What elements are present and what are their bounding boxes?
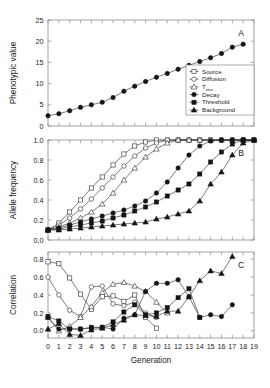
point-A-Phenotypic value	[100, 100, 105, 105]
ytick-label-C-1: 0.2	[34, 309, 44, 318]
point-A-Phenotypic value	[111, 95, 116, 100]
point-A-Phenotypic value	[143, 79, 148, 84]
panel-letter-C: C	[238, 260, 244, 270]
point-B-Threshold	[209, 160, 213, 164]
point-C-Threshold	[68, 327, 72, 331]
point-A-Phenotypic value	[198, 59, 203, 64]
point-B-Threshold	[154, 200, 158, 204]
point-C-Source	[154, 326, 158, 330]
point-B-Decay	[208, 139, 213, 144]
point-C-Diffusion	[100, 284, 105, 289]
legend-label-Source: Source	[202, 68, 222, 75]
point-C-Source	[133, 293, 137, 297]
ytick-label-B-3: 0.6	[34, 176, 44, 185]
legend-label-Decay: Decay	[202, 91, 220, 98]
point-B-Threshold	[230, 142, 234, 146]
point-A-Phenotypic value	[176, 67, 181, 72]
point-A-Phenotypic value	[165, 71, 170, 76]
point-B-Source	[100, 175, 104, 179]
point-C-Source	[100, 295, 104, 299]
xtick-label-6: 6	[111, 342, 115, 351]
point-B-Diffusion	[132, 154, 137, 159]
xtick-label-10: 10	[152, 342, 160, 351]
xtick-label-16: 16	[217, 342, 225, 351]
point-A-Phenotypic value	[219, 51, 224, 56]
ytick-label-C-0: 0.0	[34, 326, 44, 335]
point-B-Decay	[165, 180, 170, 185]
xtick-label-5: 5	[100, 342, 104, 351]
xtick-label-4: 4	[89, 342, 93, 351]
legend-label-Background: Background	[202, 106, 236, 113]
xtick-label-12: 12	[174, 342, 182, 351]
point-B-Source	[89, 186, 93, 190]
ytick-label-B-2: 0.4	[34, 196, 44, 205]
point-C-Diffusion	[67, 308, 72, 313]
point-A-Phenotypic value	[208, 55, 213, 60]
point-B-Source	[133, 144, 137, 148]
point-A-Phenotypic value	[132, 84, 137, 89]
point-B-Source	[143, 140, 147, 144]
point-C-Decay	[176, 278, 181, 283]
legend-marker-filled-circle	[192, 92, 197, 97]
legend-label-Threshold: Threshold	[202, 98, 230, 105]
xtick-label-15: 15	[207, 342, 215, 351]
point-B-Background	[219, 169, 225, 174]
xtick-label-17: 17	[228, 342, 236, 351]
point-B-Diffusion	[78, 207, 83, 212]
point-C-Decay	[111, 327, 116, 332]
point-B-Threshold	[219, 150, 223, 154]
ytick-label-B-1: 0.2	[34, 216, 44, 225]
point-B-Decay	[122, 208, 127, 213]
point-A-Phenotypic value	[241, 42, 246, 47]
legend-marker-open-circle	[192, 77, 197, 82]
point-B-Tenz	[143, 154, 149, 159]
point-B-Decay	[198, 144, 203, 149]
point-C-Threshold	[122, 310, 126, 314]
point-C-Decay	[219, 314, 224, 319]
panel-letter-A: A	[238, 28, 244, 38]
point-B-Tenz	[89, 209, 95, 214]
point-B-Tenz	[78, 215, 84, 220]
xtick-label-18: 18	[239, 342, 247, 351]
xtick-label-8: 8	[133, 342, 137, 351]
ytick-label-B-5: 1.0	[34, 136, 44, 145]
point-A-Phenotypic value	[122, 89, 127, 94]
point-B-Threshold	[176, 188, 180, 192]
point-B-Decay	[230, 138, 235, 143]
point-C-Tenz	[99, 290, 105, 295]
point-A-Phenotypic value	[89, 103, 94, 108]
point-A-Phenotypic value	[46, 114, 51, 119]
ytick-label-A-5: 25	[36, 16, 44, 25]
point-B-Threshold	[187, 182, 191, 186]
point-C-Source	[111, 294, 115, 298]
xtick-label-1: 1	[57, 342, 61, 351]
point-C-Threshold	[176, 296, 180, 300]
ylabel-B: Allele frequency	[9, 160, 18, 219]
xtick-label-3: 3	[79, 342, 83, 351]
point-B-Threshold	[198, 172, 202, 176]
ylabel-C: Correlation	[9, 275, 18, 315]
ytick-label-A-3: 15	[36, 58, 44, 67]
figure-container: 0510152025Phenotypic valueA0.00.20.40.60…	[0, 0, 270, 388]
point-B-Decay	[89, 217, 94, 222]
point-A-Phenotypic value	[57, 111, 62, 116]
point-B-Source	[111, 163, 115, 167]
point-B-Source	[122, 152, 126, 156]
point-A-Phenotypic value	[67, 108, 72, 113]
ytick-label-C-3: 0.6	[34, 273, 44, 282]
point-B-Decay	[154, 191, 159, 196]
point-C-Tenz	[121, 280, 127, 285]
point-A-Phenotypic value	[230, 45, 235, 50]
point-B-Decay	[219, 138, 224, 143]
point-C-Source	[46, 260, 50, 264]
point-A-Phenotypic value	[78, 105, 83, 110]
point-C-Threshold	[133, 303, 137, 307]
xtick-label-19: 19	[250, 342, 258, 351]
point-B-Decay	[111, 211, 116, 216]
point-B-Decay	[143, 199, 148, 204]
point-C-Background	[175, 308, 181, 313]
xtick-label-13: 13	[185, 342, 193, 351]
curve-C-Tenz	[48, 282, 167, 330]
xlabel: Generation	[131, 356, 172, 365]
point-C-Source	[122, 299, 126, 303]
